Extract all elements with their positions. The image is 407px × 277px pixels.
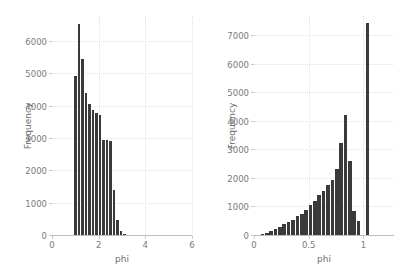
y-tick-mark bbox=[49, 41, 52, 42]
x-tick-label: 0 bbox=[49, 241, 54, 250]
y-tick-label: 5000 bbox=[227, 89, 249, 98]
x-tick-mark bbox=[254, 236, 255, 239]
histogram-bar bbox=[339, 143, 343, 236]
histogram-bar bbox=[81, 59, 84, 236]
y-axis-label-left: Frequency bbox=[23, 103, 33, 150]
histogram-bar bbox=[335, 169, 339, 236]
x-axis-line-left bbox=[52, 235, 192, 236]
x-tick-label: 1 bbox=[361, 241, 366, 250]
histogram-bar bbox=[300, 214, 304, 236]
y-tick-label: 2000 bbox=[227, 175, 249, 184]
x-axis-label-left: phi bbox=[115, 254, 129, 264]
x-tick-mark bbox=[192, 236, 193, 239]
x-tick-label: 6 bbox=[189, 241, 194, 250]
y-tick-mark bbox=[251, 149, 254, 150]
gridline-vertical bbox=[192, 16, 193, 236]
y-tick-mark bbox=[251, 64, 254, 65]
histogram-bar bbox=[99, 115, 102, 236]
x-axis-line-right bbox=[254, 235, 394, 236]
x-tick-label: 0.5 bbox=[302, 241, 316, 250]
histogram-bar bbox=[88, 104, 91, 236]
histogram-bar bbox=[113, 190, 116, 236]
y-tick-mark bbox=[49, 170, 52, 171]
x-tick-mark bbox=[99, 236, 100, 239]
histogram-bar bbox=[85, 93, 88, 236]
histogram-bar bbox=[352, 211, 356, 236]
y-tick-mark bbox=[49, 138, 52, 139]
y-tick-mark bbox=[49, 106, 52, 107]
histogram-bar bbox=[106, 140, 109, 236]
histogram-bar bbox=[322, 191, 326, 236]
x-tick-mark bbox=[309, 236, 310, 239]
histogram-bar bbox=[296, 216, 300, 236]
y-tick-label: 6000 bbox=[227, 61, 249, 70]
histogram-bar bbox=[309, 205, 313, 236]
y-tick-label: 1000 bbox=[25, 200, 47, 209]
histogram-bar bbox=[102, 140, 105, 236]
histogram-bar bbox=[74, 76, 77, 236]
bar-series-right bbox=[254, 16, 394, 236]
histogram-bar bbox=[78, 24, 81, 236]
histogram-bar bbox=[304, 210, 308, 236]
y-tick-label: 0 bbox=[244, 232, 249, 241]
histogram-bar bbox=[331, 180, 335, 236]
histogram-figure: 0100020003000400050006000 0246 phi Frequ… bbox=[0, 0, 407, 277]
bar-series-left bbox=[52, 16, 192, 236]
histogram-bar bbox=[287, 222, 291, 236]
x-tick-mark bbox=[363, 236, 364, 239]
x-tick-label: 0 bbox=[251, 241, 256, 250]
histogram-bar bbox=[344, 115, 348, 236]
chart-panel-right: 01000200030004000500060007000 00.51 phi … bbox=[204, 0, 407, 277]
x-axis-label-right: phi bbox=[317, 254, 331, 264]
y-tick-mark bbox=[49, 73, 52, 74]
x-tick-label: 4 bbox=[143, 241, 148, 250]
y-tick-mark bbox=[251, 35, 254, 36]
y-tick-mark bbox=[251, 92, 254, 93]
histogram-bar bbox=[317, 195, 321, 236]
chart-panel-left: 0100020003000400050006000 0246 phi Frequ… bbox=[0, 0, 204, 277]
histogram-bar bbox=[366, 23, 370, 236]
y-tick-label: 1000 bbox=[227, 204, 249, 213]
histogram-bar bbox=[357, 221, 361, 236]
y-tick-label: 5000 bbox=[25, 71, 47, 80]
histogram-bar bbox=[313, 201, 317, 236]
y-tick-mark bbox=[251, 206, 254, 207]
y-tick-label: 6000 bbox=[25, 38, 47, 47]
y-tick-mark bbox=[251, 178, 254, 179]
histogram-bar bbox=[109, 141, 112, 236]
y-tick-label: 0 bbox=[42, 232, 47, 241]
histogram-bar bbox=[95, 113, 98, 236]
x-tick-label: 2 bbox=[96, 241, 101, 250]
histogram-bar bbox=[348, 161, 352, 236]
y-tick-label: 2000 bbox=[25, 168, 47, 177]
y-tick-mark bbox=[49, 203, 52, 204]
plot-area-right: 01000200030004000500060007000 00.51 phi … bbox=[254, 16, 394, 236]
y-tick-label: 7000 bbox=[227, 32, 249, 41]
histogram-bar bbox=[92, 110, 95, 236]
histogram-bar bbox=[116, 220, 119, 236]
y-axis-label-right: Frequency bbox=[227, 103, 237, 150]
plot-area-left: 0100020003000400050006000 0246 phi Frequ… bbox=[52, 16, 192, 236]
histogram-bar bbox=[291, 220, 295, 236]
histogram-bar bbox=[326, 185, 330, 236]
y-tick-mark bbox=[251, 121, 254, 122]
x-tick-mark bbox=[145, 236, 146, 239]
x-tick-mark bbox=[52, 236, 53, 239]
